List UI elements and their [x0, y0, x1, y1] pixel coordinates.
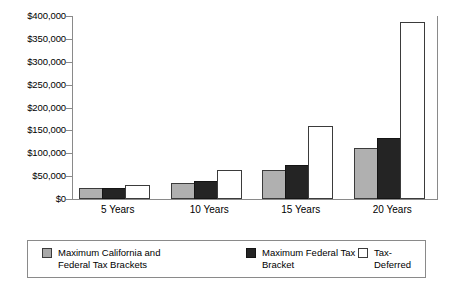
- bar-group: [255, 0, 347, 199]
- bar-group: [72, 0, 164, 199]
- y-axis-tick-mark: [66, 130, 73, 131]
- y-axis-tick-label: $300,000: [0, 57, 66, 67]
- x-axis-tick-label: 20 Years: [347, 204, 439, 216]
- legend-label: Tax-Deferred: [374, 247, 425, 271]
- chart-legend: Maximum California andFederal Tax Bracke…: [27, 240, 426, 278]
- x-axis-tick-labels: 5 Years10 Years15 Years20 Years: [72, 204, 438, 224]
- legend-item[interactable]: Maximum California andFederal Tax Bracke…: [42, 247, 160, 271]
- legend-item[interactable]: Maximum Federal TaxBracket: [246, 247, 355, 271]
- y-axis-tick-mark: [66, 85, 73, 86]
- y-axis-tick-label: $100,000: [0, 148, 66, 158]
- bar: [102, 188, 127, 199]
- legend-swatch-icon: [42, 248, 52, 258]
- bar: [262, 170, 287, 199]
- bar: [79, 188, 104, 199]
- y-axis-tick-mark: [66, 39, 73, 40]
- y-axis-tick-mark: [66, 176, 73, 177]
- y-axis-tick-labels: $0$50,000$100,000$150,000$200,000$250,00…: [0, 0, 66, 232]
- bar: [308, 126, 333, 199]
- y-axis-tick-mark: [66, 199, 73, 200]
- legend-label-line2: Federal Tax Brackets: [58, 259, 147, 270]
- bar-group: [347, 0, 439, 199]
- bar: [285, 165, 310, 199]
- x-axis-tick-label: 10 Years: [164, 204, 256, 216]
- bar: [171, 183, 196, 199]
- legend-swatch-icon: [358, 248, 368, 258]
- bar: [217, 170, 242, 199]
- y-axis-tick-label: $250,000: [0, 80, 66, 90]
- legend-item[interactable]: Tax-Deferred: [358, 247, 425, 271]
- bars-layer: [72, 0, 438, 200]
- x-axis-tick-label: 15 Years: [255, 204, 347, 216]
- y-axis-tick-mark: [66, 62, 73, 63]
- y-axis-tick-mark: [66, 16, 73, 17]
- bar: [125, 185, 150, 199]
- x-axis-tick-label: 5 Years: [72, 204, 164, 216]
- y-axis-tick-label: $0: [0, 194, 66, 204]
- bar-chart: $0$50,000$100,000$150,000$200,000$250,00…: [0, 0, 454, 288]
- legend-label: Maximum Federal TaxBracket: [262, 247, 355, 271]
- y-axis-tick-label: $200,000: [0, 103, 66, 113]
- legend-label-line2: Bracket: [262, 259, 294, 270]
- bar: [354, 148, 379, 199]
- legend-label: Maximum California andFederal Tax Bracke…: [58, 247, 160, 271]
- bar: [400, 22, 425, 199]
- y-axis-tick-mark: [66, 153, 73, 154]
- y-axis-tick-label: $50,000: [0, 171, 66, 181]
- y-axis-tick-mark: [66, 108, 73, 109]
- legend-swatch-icon: [246, 248, 256, 258]
- y-axis-tick-label: $150,000: [0, 125, 66, 135]
- bar-group: [164, 0, 256, 199]
- y-axis-tick-label: $400,000: [0, 11, 66, 21]
- bar: [194, 181, 219, 199]
- bar: [377, 138, 402, 199]
- plot-area: $0$50,000$100,000$150,000$200,000$250,00…: [0, 0, 454, 232]
- y-axis-tick-label: $350,000: [0, 34, 66, 44]
